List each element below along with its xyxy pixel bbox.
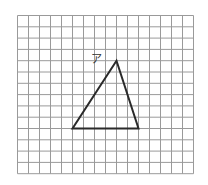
vertex-label-a: ア — [91, 53, 102, 66]
square-grid — [18, 16, 194, 174]
grid-diagram: ア — [0, 0, 208, 185]
